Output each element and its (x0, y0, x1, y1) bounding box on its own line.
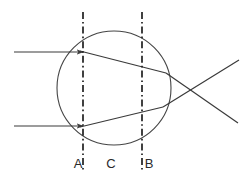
label-c: C (106, 156, 115, 171)
ray-diagram-canvas: A C B (0, 0, 246, 183)
label-b: B (145, 156, 154, 171)
figure-background (0, 0, 246, 183)
ray-diagram-figure: A C B (0, 0, 246, 183)
label-a: A (74, 156, 83, 171)
